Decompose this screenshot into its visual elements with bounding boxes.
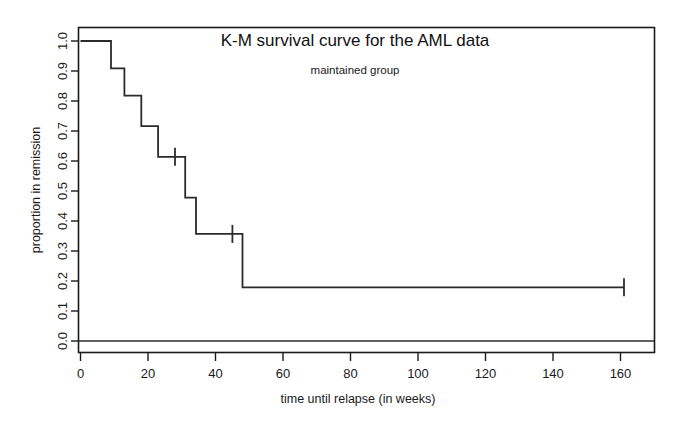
x-axis-title: time until relapse (in weeks)	[281, 392, 436, 406]
km-step-curve	[81, 41, 625, 287]
x-tick-label-20: 20	[141, 366, 155, 381]
chart-subtitle: maintained group	[311, 64, 400, 76]
x-tick-label-100: 100	[407, 366, 429, 381]
x-axis-tick-labels: 0 20 40 60 80 100 120 140 160	[77, 366, 631, 381]
y-axis-title: proportion in remission	[29, 127, 43, 253]
y-tick-label-0.8: 0.8	[55, 92, 70, 110]
y-tick-label-0.3: 0.3	[55, 242, 70, 260]
x-tick-label-40: 40	[208, 366, 222, 381]
y-tick-label-0.1: 0.1	[55, 302, 70, 320]
y-tick-label-0.0: 0.0	[55, 332, 70, 350]
y-axis-tick-labels: 1.0 0.9 0.8 0.7 0.6 0.5 0.4 0.3 0.2 0.1 …	[55, 32, 70, 350]
chart-figure: 1.0 0.9 0.8 0.7 0.6 0.5 0.4 0.3 0.2 0.1 …	[0, 0, 678, 429]
km-survival-plot: 1.0 0.9 0.8 0.7 0.6 0.5 0.4 0.3 0.2 0.1 …	[0, 0, 678, 429]
y-tick-label-0.6: 0.6	[55, 152, 70, 170]
y-tick-label-0.7: 0.7	[55, 122, 70, 140]
y-tick-label-0.2: 0.2	[55, 272, 70, 290]
y-tick-label-0.9: 0.9	[55, 62, 70, 80]
x-axis-ticks	[81, 353, 621, 362]
y-tick-label-0.5: 0.5	[55, 182, 70, 200]
x-tick-label-120: 120	[475, 366, 497, 381]
plot-box-border	[79, 28, 655, 353]
x-tick-label-160: 160	[610, 366, 632, 381]
x-tick-label-60: 60	[276, 366, 290, 381]
y-tick-label-0.4: 0.4	[55, 212, 70, 230]
x-tick-label-80: 80	[343, 366, 357, 381]
x-tick-label-0: 0	[77, 366, 84, 381]
x-tick-label-140: 140	[542, 366, 564, 381]
y-tick-label-1.0: 1.0	[55, 32, 70, 50]
chart-title: K-M survival curve for the AML data	[221, 31, 490, 50]
y-axis-ticks	[71, 41, 79, 341]
